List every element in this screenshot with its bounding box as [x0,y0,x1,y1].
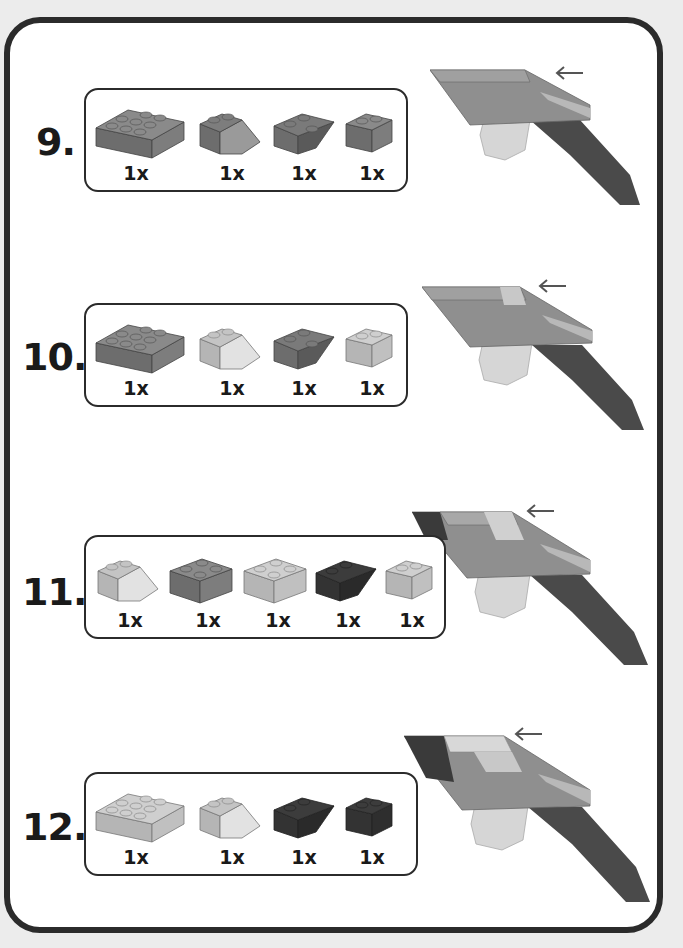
step-number: 9. [36,120,75,164]
brick-2x4-icon [92,313,188,375]
left-arrow-icon [526,504,556,518]
part-quantity: 1x [258,609,298,631]
build-model-illustration [430,60,650,210]
part-quantity: 1x [212,846,252,868]
part-quantity: 1x [352,377,392,399]
build-model-illustration [412,500,652,670]
left-arrow-icon [514,727,544,741]
brick-1x2-icon [344,106,396,158]
part-quantity: 1x [212,377,252,399]
step-number: 12. [22,805,86,849]
brick-2x2-icon [168,549,236,607]
step-number: 11. [22,570,86,614]
brick-1x2-icon [344,321,396,373]
part-quantity: 1x [352,846,392,868]
brick-1x2-icon [384,553,436,605]
inverted-slope-2x2-icon [272,317,338,375]
brick-1x2-icon [344,790,396,842]
inverted-slope-2x2-icon [314,549,380,607]
part-quantity: 1x [328,609,368,631]
part-quantity: 1x [110,609,150,631]
inverted-slope-2x2-icon [272,786,338,844]
left-arrow-icon [538,279,568,293]
slope-2x2-icon [198,102,264,160]
inverted-slope-2x2-icon [272,102,338,160]
parts-list-box: 1x 1x 1x 1x [84,88,408,192]
step-number: 10. [22,335,86,379]
part-quantity: 1x [284,377,324,399]
build-model-illustration [422,275,652,435]
part-quantity: 1x [116,162,156,184]
slope-2x2-icon [198,317,264,375]
part-quantity: 1x [392,609,432,631]
part-quantity: 1x [284,846,324,868]
slope-2x2-icon [96,549,162,607]
parts-list-box: 1x 1x 1x 1x [84,772,418,876]
part-quantity: 1x [116,377,156,399]
left-arrow-icon [555,66,585,80]
part-quantity: 1x [352,162,392,184]
part-quantity: 1x [116,846,156,868]
part-quantity: 1x [188,609,228,631]
parts-list-box: 1x 1x 1x 1x [84,535,446,639]
brick-2x4-icon [92,98,188,160]
slope-2x2-icon [198,786,264,844]
build-model-illustration [404,722,654,907]
brick-2x4-icon [92,782,188,844]
brick-2x2-icon [242,549,310,607]
parts-list-box: 1x 1x 1x 1x [84,303,408,407]
part-quantity: 1x [212,162,252,184]
part-quantity: 1x [284,162,324,184]
